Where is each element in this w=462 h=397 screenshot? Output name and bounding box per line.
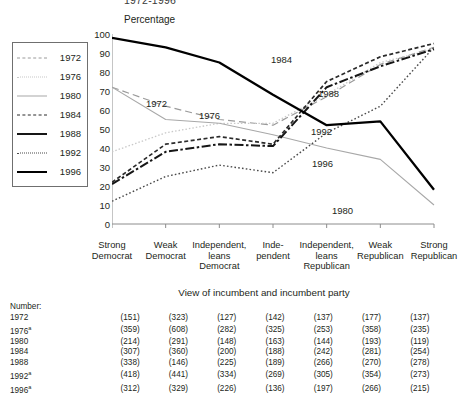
table-cell: (269) [251,368,299,382]
legend-label-1996: 1996 [52,167,82,177]
table-row: 1972(151)(323)(127)(142)(137)(177)(137) [10,313,444,323]
table-cell: (137) [299,313,347,323]
legend-swatch-1976 [17,72,47,82]
chart-legend: 1972197619801984198819921996 [12,42,88,187]
table-cell: (266) [299,358,347,368]
table-row-year: 1992a [10,368,106,382]
legend-item-1992[interactable]: 1992 [17,143,82,162]
table-cell: (359) [106,323,154,337]
series-annotation-1992: 1992 [311,126,332,137]
table-cell: (305) [299,368,347,382]
table-cell: (282) [203,323,251,337]
series-line-1992 [112,47,434,201]
table-row: 1996a(312)(329)(226)(136)(197)(266)(215) [10,382,444,396]
x-axis-tick-labels: StrongDemocratWeakDemocratIndependent,le… [88,240,440,284]
legend-label-1984: 1984 [52,110,82,120]
table-row: 1984(307)(360)(200)(188)(242)(281)(254) [10,347,444,357]
table-cell: (307) [106,347,154,357]
legend-item-1988[interactable]: 1988 [17,124,82,143]
legend-item-1976[interactable]: 1976 [17,67,82,86]
legend-swatch-1992 [17,148,47,158]
table-cell: (189) [251,358,299,368]
legend-swatch-1988 [17,129,47,139]
table-cell: (273) [396,368,444,382]
table-cell: (281) [347,347,395,357]
y-tick-90: 90 [99,48,110,59]
table-row-year: 1976a [10,323,106,337]
table-cell: (334) [203,368,251,382]
table-row: 1988(338)(146)(225)(189)(266)(270)(278) [10,358,444,368]
number-table: Number: 1972(151)(323)(127)(142)(137)(17… [10,302,444,397]
table-cell: (608) [154,323,202,337]
number-table-header: Number: [10,302,444,311]
y-axis-tick-labels: 0102030405060708090100 [88,30,110,238]
table-cell: (354) [347,368,395,382]
table-cell: (225) [203,358,251,368]
series-annotation-1972: 1972 [146,98,167,109]
table-cell: (291) [154,337,202,347]
table-cell: (197) [299,382,347,396]
table-row: 1980(214)(291)(148)(163)(144)(193)(119) [10,337,444,347]
y-tick-10: 10 [99,200,110,211]
table-cell: (193) [347,337,395,347]
table-cell: (312) [106,382,154,396]
table-cell: (226) [203,382,251,396]
table-cell: (137) [396,313,444,323]
table-cell: (441) [154,368,202,382]
table-row-year: 1988 [10,358,106,368]
legend-item-1984[interactable]: 1984 [17,105,82,124]
plot-area: 0102030405060708090100 [88,30,440,238]
table-cell: (360) [154,347,202,357]
y-tick-20: 20 [99,181,110,192]
table-cell: (338) [106,358,154,368]
table-cell: (146) [154,358,202,368]
legend-label-1980: 1980 [52,91,82,101]
table-cell: (127) [203,313,251,323]
table-cell: (418) [106,368,154,382]
table-cell: (200) [203,347,251,357]
table-row-year: 1984 [10,347,106,357]
table-cell: (278) [396,358,444,368]
legend-swatch-1972 [17,53,47,63]
table-cell: (235) [396,323,444,337]
table-cell: (215) [396,382,444,396]
legend-swatch-1984 [17,110,47,120]
y-tick-40: 40 [99,143,110,154]
y-tick-60: 60 [99,105,110,116]
legend-item-1972[interactable]: 1972 [17,48,82,67]
table-cell: (188) [251,347,299,357]
table-cell: (253) [299,323,347,337]
y-tick-30: 30 [99,162,110,173]
table-cell: (144) [299,337,347,347]
legend-label-1992: 1992 [52,148,82,158]
y-tick-0: 0 [105,219,110,230]
table-cell: (323) [154,313,202,323]
table-cell: (325) [251,323,299,337]
legend-label-1976: 1976 [52,72,82,82]
clipped-chart-title: 1972-1996 [124,0,176,6]
x-axis-caption: View of incumbent and incumbent party [88,287,440,298]
table-cell: (254) [396,347,444,357]
table-row-year: 1972 [10,313,106,323]
table-cell: (136) [251,382,299,396]
y-tick-50: 50 [99,124,110,135]
table-cell: (329) [154,382,202,396]
legend-swatch-1980 [17,91,47,101]
series-annotation-1988: 1988 [318,88,339,99]
legend-item-1996[interactable]: 1996 [17,162,82,181]
table-cell: (151) [106,313,154,323]
legend-swatch-1996 [17,167,47,177]
table-cell: (266) [347,382,395,396]
table-cell: (242) [299,347,347,357]
y-tick-100: 100 [94,29,110,40]
table-row-year: 1996a [10,382,106,396]
table-cell: (177) [347,313,395,323]
table-cell: (358) [347,323,395,337]
series-annotation-1980: 1980 [332,205,353,216]
series-annotation-1996: 1996 [312,158,333,169]
y-axis-title: Percentage [124,14,175,25]
legend-label-1988: 1988 [52,129,82,139]
legend-item-1980[interactable]: 1980 [17,86,82,105]
series-annotation-1976: 1976 [199,110,220,121]
table-cell: (270) [347,358,395,368]
